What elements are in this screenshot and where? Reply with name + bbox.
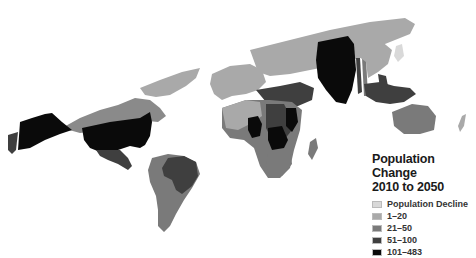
legend-swatch <box>372 213 382 220</box>
legend-label: 51–100 <box>387 235 417 245</box>
legend-title: Population Change 2010 to 2050 <box>372 152 476 194</box>
region-indonesia <box>364 82 416 104</box>
legend-item-51-100: 51–100 <box>372 234 476 246</box>
legend-item-1-20: 1–20 <box>372 210 476 222</box>
legend-item-101-483: 101–483 <box>372 246 476 258</box>
legend-label: 1–20 <box>387 211 407 221</box>
region-australia <box>392 104 436 134</box>
region-india <box>316 36 356 104</box>
legend-label: Population Decline <box>387 199 468 209</box>
legend-title-line1: Population Change <box>372 152 476 180</box>
legend-title-line2: 2010 to 2050 <box>372 180 476 194</box>
map-legend: Population Change 2010 to 2050 Populatio… <box>372 152 476 258</box>
legend-swatch <box>372 225 382 232</box>
legend-item-decline: Population Decline <box>372 198 476 210</box>
region-japan <box>394 44 404 62</box>
legend-label: 21–50 <box>387 223 412 233</box>
region-indochina-strips <box>356 58 362 94</box>
region-greenland <box>140 68 200 97</box>
region-alaska <box>18 113 72 150</box>
legend-item-21-50: 21–50 <box>372 222 476 234</box>
region-new-zealand <box>458 114 466 132</box>
legend-items: Population Decline 1–20 21–50 51–100 101… <box>372 198 476 258</box>
legend-swatch <box>372 249 382 256</box>
legend-swatch <box>372 201 382 208</box>
region-aleutian-strips <box>8 132 18 154</box>
region-madagascar <box>308 138 318 160</box>
legend-label: 101–483 <box>387 247 422 257</box>
region-south-africa <box>266 150 292 176</box>
region-mexico <box>96 150 132 170</box>
legend-swatch <box>372 237 382 244</box>
